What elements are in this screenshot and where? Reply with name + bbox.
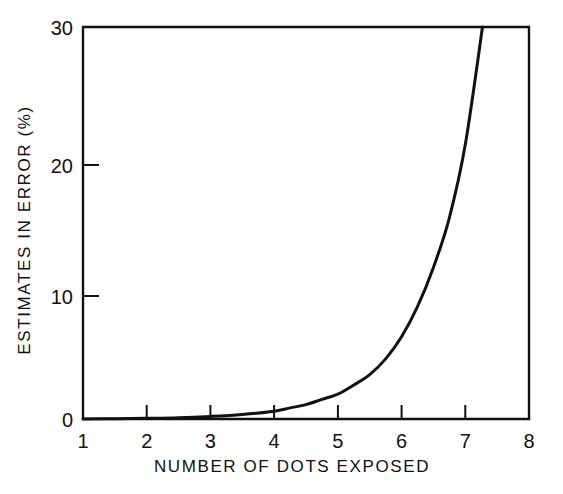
x-tick-label-2: 2 [141,430,152,452]
x-tick-label-5: 5 [332,430,343,452]
x-axis-title: NUMBER OF DOTS EXPOSED [154,457,430,476]
x-tick-label-1: 1 [77,430,88,452]
y-axis-title: ESTIMATES IN ERROR (%) [15,105,34,354]
chart-figure: 30 20 10 0 1 2 3 4 5 6 7 8 NUMBER OF DOT… [0,0,563,494]
data-curve [83,27,482,419]
chart-plot-area: 30 20 10 0 1 2 3 4 5 6 7 8 NUMBER OF DOT… [0,0,563,494]
x-tick-label-4: 4 [269,430,280,452]
x-tick-label-3: 3 [205,430,216,452]
y-tick-label-10: 10 [51,286,73,308]
y-tick-label-30: 30 [51,17,73,39]
y-axis-ticks [83,165,99,296]
x-tick-label-8: 8 [523,430,534,452]
x-tick-label-7: 7 [460,430,471,452]
y-tick-label-20: 20 [51,155,73,177]
y-tick-label-0: 0 [62,409,73,431]
x-tick-label-6: 6 [396,430,407,452]
axis-frame [83,27,529,419]
